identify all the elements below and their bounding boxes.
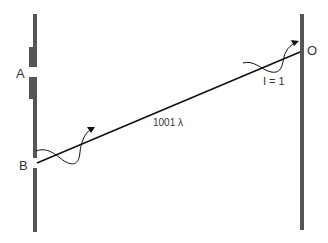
right-wall	[300, 14, 304, 230]
left-wall-lower	[33, 168, 37, 232]
label-intensity: I = 1	[263, 75, 285, 87]
aperture-a-upper	[29, 47, 34, 67]
aperture-a-gap	[33, 67, 37, 77]
label-o: O	[307, 43, 317, 58]
ray-b-to-o	[37, 52, 300, 163]
label-distance: 1001 λ	[153, 117, 183, 128]
label-a: A	[16, 66, 25, 81]
diagram-canvas: A B O 1001 λ I = 1	[0, 0, 328, 243]
aperture-a-lower	[29, 77, 34, 99]
label-b: B	[19, 158, 28, 173]
wave-near-b	[36, 129, 91, 164]
